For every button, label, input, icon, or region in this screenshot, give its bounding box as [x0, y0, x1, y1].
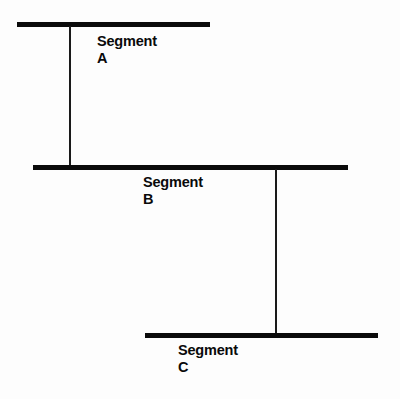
- connector-b-to-c: [275, 169, 277, 335]
- segment-b-label-line1: Segment: [143, 174, 203, 190]
- segment-b-label-line2: B: [143, 191, 203, 208]
- segment-c-label: SegmentC: [178, 342, 238, 376]
- segment-b-line: [33, 165, 348, 170]
- diagram-canvas: SegmentA SegmentB SegmentC: [0, 0, 400, 399]
- segment-a-label-line2: A: [97, 50, 157, 67]
- segment-c-label-line1: Segment: [178, 342, 238, 358]
- segment-a-label: SegmentA: [97, 33, 157, 67]
- segment-a-line: [17, 22, 210, 27]
- segment-a-label-line1: Segment: [97, 33, 157, 49]
- segment-c-line: [145, 333, 378, 338]
- connector-a-to-b: [69, 26, 71, 166]
- segment-b-label: SegmentB: [143, 174, 203, 208]
- segment-c-label-line2: C: [178, 359, 238, 376]
